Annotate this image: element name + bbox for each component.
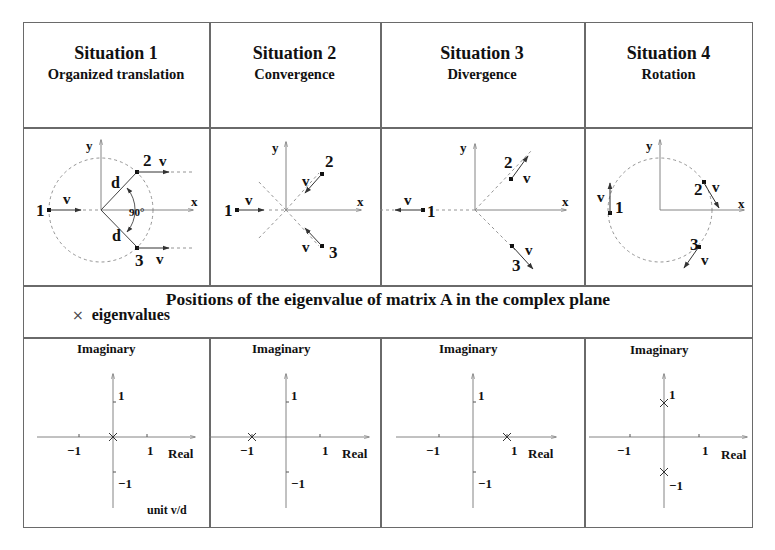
complex-plane-situation-4: Imaginary 1 −1 −1 1 Real — [584, 338, 753, 528]
point-label: 2 — [143, 151, 152, 170]
tick-label: 1 — [478, 388, 485, 403]
situation-3-header: Situation 3 Divergence — [380, 42, 584, 84]
situation-title: Situation 4 — [584, 42, 753, 64]
real-label: Real — [342, 446, 368, 461]
situation-4-header: Situation 4 Rotation — [584, 42, 753, 84]
velocity-label: v — [597, 189, 605, 205]
imaginary-label: Imaginary — [252, 341, 311, 356]
legend: ×eigenvalues — [72, 306, 170, 324]
velocity-label: v — [712, 179, 720, 195]
distance-label: d — [112, 227, 121, 244]
tick-label: −1 — [669, 478, 683, 493]
complex-plane-situation-3: Imaginary 1 −1 −1 1 Real — [380, 338, 584, 528]
imaginary-label: Imaginary — [630, 342, 689, 357]
velocity-label: v — [404, 192, 412, 208]
tick-label: −1 — [478, 476, 492, 491]
real-label: Real — [721, 447, 747, 462]
point-label: 1 — [224, 201, 233, 220]
real-label: Real — [528, 446, 554, 461]
tick-label: 1 — [291, 388, 298, 403]
tick-label: 1 — [702, 443, 709, 458]
point-label: 2 — [325, 152, 334, 171]
situation-title: Situation 1 — [23, 42, 209, 64]
situation-2-header: Situation 2 Convergence — [209, 42, 380, 84]
tick-label: 1 — [669, 387, 676, 402]
legend-label: eigenvalues — [92, 306, 170, 323]
velocity-label: v — [159, 153, 167, 169]
tick-label: −1 — [118, 476, 132, 491]
situation-1-header: Situation 1 Organized translation — [23, 42, 209, 84]
tick-label: 1 — [147, 443, 154, 458]
tick-label: −1 — [240, 443, 254, 458]
velocity-label: v — [245, 192, 253, 208]
imaginary-label: Imaginary — [77, 341, 136, 356]
axis-y-label: y — [460, 140, 467, 155]
unit-note: unit v/d — [147, 503, 187, 517]
axis-y-label: y — [272, 140, 279, 155]
velocity-label: v — [63, 191, 71, 207]
axis-x-label: x — [191, 194, 198, 209]
situation-title: Situation 3 — [380, 42, 584, 64]
axis-x-label: x — [738, 196, 745, 211]
velocity-label: v — [525, 242, 533, 258]
complex-plane-situation-2: Imaginary 1 −1 −1 1 Real — [209, 338, 380, 528]
angle-label: 90° — [129, 206, 144, 218]
tick-label: 1 — [511, 443, 518, 458]
point-label: 1 — [427, 202, 436, 221]
tick-label: 1 — [322, 443, 329, 458]
axis-x-label: x — [357, 194, 364, 209]
situation-subtitle: Divergence — [380, 64, 584, 84]
situation-title: Situation 2 — [209, 42, 380, 64]
diagram-situation-2: y x 1 v 2 v 3 v — [209, 128, 380, 285]
tick-label: −1 — [291, 476, 305, 491]
point-label: 1 — [36, 201, 45, 220]
distance-label: d — [111, 174, 120, 191]
point-label: 2 — [694, 180, 703, 199]
situation-subtitle: Rotation — [584, 64, 753, 84]
velocity-label: v — [523, 170, 531, 186]
point-label: 1 — [615, 198, 624, 217]
axis-y-label: y — [646, 138, 653, 153]
tick-label: −1 — [617, 443, 631, 458]
point-label: 3 — [690, 235, 699, 254]
tick-label: −1 — [67, 443, 81, 458]
diagram-situation-4: y x 1 v 2 v 3 v — [584, 128, 753, 285]
eigenvalue-cross-icon: × — [72, 307, 84, 323]
point-label: 2 — [504, 153, 513, 172]
point-label: 3 — [135, 251, 144, 270]
complex-plane-situation-1: Imaginary 1 −1 −1 1 Real unit v/d — [23, 338, 209, 528]
eigenvalue-banner: Positions of the eigenvalue of matrix A … — [23, 285, 753, 337]
diagram-situation-3: y x 1 v 2 v 3 v — [380, 128, 584, 285]
velocity-label: v — [302, 173, 310, 189]
imaginary-label: Imaginary — [439, 341, 498, 356]
velocity-label: v — [302, 239, 310, 255]
tick-label: 1 — [118, 388, 125, 403]
situation-subtitle: Convergence — [209, 64, 380, 84]
point-label: 3 — [512, 256, 521, 275]
situation-subtitle: Organized translation — [23, 64, 209, 84]
diagram-situation-1: y x 90° d d 1 v 2 v 3 v — [23, 128, 209, 285]
axis-x-label: x — [562, 194, 569, 209]
real-label: Real — [168, 446, 194, 461]
point-label: 3 — [329, 243, 338, 262]
axis-y-label: y — [86, 138, 93, 153]
tick-label: −1 — [426, 443, 440, 458]
velocity-label: v — [701, 252, 709, 268]
velocity-label: v — [156, 251, 164, 267]
